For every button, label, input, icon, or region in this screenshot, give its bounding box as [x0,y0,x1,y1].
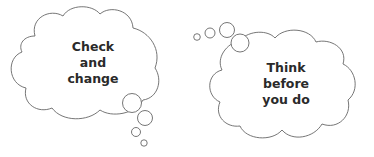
left-cloud-text: Check and change [55,39,131,87]
right-tail-bubble-3 [205,28,215,38]
left-cloud-line-3: change [55,71,131,87]
right-tail-bubble-2 [220,23,235,38]
left-cloud-line-1: Check [55,39,131,55]
left-tail-bubble-2 [138,111,153,126]
right-cloud-text: Think before you do [248,60,324,108]
left-tail-bubble-1 [123,94,142,113]
left-tail-bubble-4 [141,140,147,146]
left-tail-bubble-3 [132,128,141,137]
right-tail-bubble-4 [194,34,201,41]
left-cloud-line-2: and [55,55,131,71]
right-cloud-line-1: Think [248,60,324,76]
right-cloud-line-3: you do [248,92,324,108]
right-tail-bubble-1 [231,34,249,52]
right-cloud-line-2: before [248,76,324,92]
